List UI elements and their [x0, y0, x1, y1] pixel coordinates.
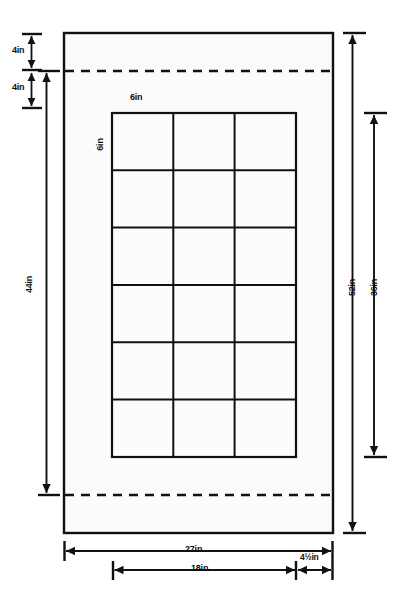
- dimension-4-half-in: [298, 561, 333, 580]
- label-44in: 44in: [25, 270, 34, 300]
- drawing-canvas: 4in 4in 44in 6in 6in 52in 36in 27in 18in…: [0, 0, 407, 613]
- label-52in: 52in: [348, 272, 357, 304]
- label-36in: 36in: [370, 272, 379, 304]
- technical-drawing-svg: [0, 0, 407, 613]
- dimension-4in-second: [22, 73, 42, 108]
- label-4-half-in: 4½in: [300, 553, 319, 562]
- label-27in: 27in: [185, 545, 202, 554]
- label-6in-horizontal: 6in: [130, 93, 142, 102]
- label-6in-vertical: 6in: [96, 130, 105, 160]
- dimension-4in-top: [22, 34, 42, 70]
- label-4in-top: 4in: [12, 46, 24, 55]
- dimension-44in: [38, 71, 60, 495]
- label-4in-second: 4in: [12, 83, 24, 92]
- label-18in: 18in: [191, 564, 208, 573]
- inner-grid: [112, 113, 296, 457]
